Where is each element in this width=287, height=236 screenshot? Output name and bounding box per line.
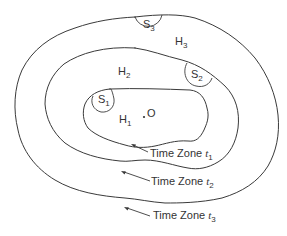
time-zone-t3-label: Time Zone t3: [153, 209, 216, 224]
region-h1-label: H1: [119, 113, 132, 128]
station-s3-label: S3: [143, 18, 155, 33]
leader-arrow-t3: [124, 207, 150, 216]
origin-point-icon: [143, 116, 145, 118]
leader-arrow-t1: [131, 144, 148, 152]
origin-label: O: [147, 107, 156, 119]
time-zone-diagram: S3 S2 S1 H3 H2 H1 O Time Zone t1 Time Zo…: [0, 0, 287, 236]
leader-arrow-t2: [121, 171, 150, 181]
time-zone-t2-label: Time Zone t2: [151, 175, 214, 190]
contour-time-zone-t2: [45, 48, 238, 169]
time-zone-t1-label: Time Zone t1: [150, 147, 213, 162]
region-h2-label: H2: [118, 65, 131, 80]
station-s1-label: S1: [98, 93, 110, 108]
region-h3-label: H3: [175, 35, 188, 50]
station-s2-label: S2: [191, 68, 203, 83]
